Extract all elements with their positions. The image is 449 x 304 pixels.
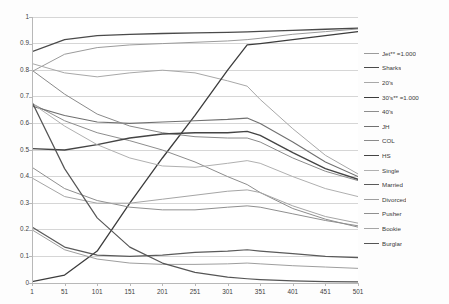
legend-swatch xyxy=(364,126,379,127)
legend-item[interactable]: Burglar xyxy=(364,236,449,251)
legend-item[interactable]: Sharks xyxy=(364,61,449,76)
legend-label: Burglar xyxy=(382,240,402,247)
legend-label: JH xyxy=(382,123,390,130)
x-tick-mark xyxy=(130,283,131,286)
x-tick-label: 401 xyxy=(287,288,298,295)
legend-swatch xyxy=(364,213,379,214)
x-tick-label: 451 xyxy=(320,288,331,295)
legend-label: Divorced xyxy=(382,196,406,203)
x-tick-label: 351 xyxy=(255,288,266,295)
legend-label: Bookie xyxy=(382,225,401,232)
x-tick-mark xyxy=(358,283,359,286)
legend-swatch xyxy=(364,140,379,141)
x-tick-label: 1 xyxy=(30,288,34,295)
legend-item[interactable]: 40's xyxy=(364,104,449,119)
legend-item[interactable]: Single xyxy=(364,163,449,178)
x-tick-mark xyxy=(65,283,66,286)
legend-item[interactable]: COL xyxy=(364,134,449,149)
legend-swatch xyxy=(364,67,379,68)
legend-label: HS xyxy=(382,152,391,159)
legend-item[interactable]: Bookie xyxy=(364,221,449,236)
legend-label: Single xyxy=(382,167,399,174)
x-tick-label: 201 xyxy=(157,288,168,295)
x-tick-mark xyxy=(325,283,326,286)
legend-label: 40's xyxy=(382,108,393,115)
legend-label: COL xyxy=(382,137,395,144)
legend-item[interactable]: Divorced xyxy=(364,192,449,207)
legend-item[interactable]: 20's xyxy=(364,75,449,90)
x-tick-mark xyxy=(162,283,163,286)
legend-swatch xyxy=(364,184,379,185)
legend: Jet** =1.000Sharks20's30's** =1.00040'sJ… xyxy=(364,46,449,250)
x-tick-label: 501 xyxy=(353,288,364,295)
chart-screenshot: 00.10.20.30.40.50.60.70.80.91 1511011512… xyxy=(0,0,449,304)
x-tick-label: 251 xyxy=(190,288,201,295)
x-tick-mark xyxy=(32,283,33,286)
legend-item[interactable]: Jet** =1.000 xyxy=(364,46,449,61)
legend-label: Pusher xyxy=(382,210,402,217)
legend-swatch xyxy=(364,228,379,229)
x-tick-label: 301 xyxy=(222,288,233,295)
legend-swatch xyxy=(364,199,379,200)
legend-swatch xyxy=(364,111,379,112)
x-tick-mark xyxy=(97,283,98,286)
legend-label: 20's xyxy=(382,79,393,86)
legend-item[interactable]: Married xyxy=(364,177,449,192)
legend-swatch xyxy=(364,97,379,98)
legend-item[interactable]: JH xyxy=(364,119,449,134)
legend-label: Jet** =1.000 xyxy=(382,50,416,57)
legend-label: Married xyxy=(382,181,403,188)
legend-label: Sharks xyxy=(382,64,401,71)
x-tick-mark xyxy=(260,283,261,286)
x-tick-label: 101 xyxy=(92,288,103,295)
x-tick-mark xyxy=(195,283,196,286)
x-tick-mark xyxy=(228,283,229,286)
x-tick-label: 51 xyxy=(61,288,68,295)
x-tick-mark xyxy=(293,283,294,286)
legend-item[interactable]: 30's** =1.000 xyxy=(364,90,449,105)
legend-item[interactable]: Pusher xyxy=(364,207,449,222)
legend-label: 30's** =1.000 xyxy=(382,94,419,101)
legend-item[interactable]: HS xyxy=(364,148,449,163)
legend-swatch xyxy=(364,82,379,83)
legend-swatch xyxy=(364,243,379,244)
legend-swatch xyxy=(364,170,379,171)
legend-swatch xyxy=(364,53,379,54)
x-tick-label: 151 xyxy=(124,288,135,295)
legend-swatch xyxy=(364,155,379,156)
